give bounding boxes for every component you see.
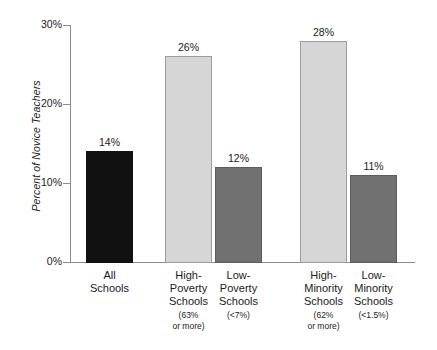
category-label-low-minority-schools: Low- Minority Schools (<1.5%) [341, 269, 406, 320]
bar-chart: Percent of Novice Teachers 30% 20% 10% 0… [0, 0, 437, 350]
category-line-3: Schools [169, 295, 208, 307]
category-line-1: Low- [362, 269, 386, 281]
category-label-low-poverty-schools: Low- Poverty Schools (<7%) [207, 269, 270, 320]
bar-low-minority-schools [350, 175, 397, 263]
y-tick-label-0: 0% [26, 256, 62, 267]
y-tick-10 [63, 183, 70, 184]
category-line-3: Schools [219, 295, 258, 307]
category-line-3: Schools [304, 295, 343, 307]
category-line-1: Low- [227, 269, 251, 281]
y-tick-label-20: 20% [26, 98, 62, 109]
bar-all-schools [86, 151, 133, 263]
bar-value-high-poverty-schools: 26% [165, 42, 212, 53]
bar-value-low-minority-schools: 11% [350, 161, 397, 172]
category-line-2: Minority [354, 282, 393, 294]
y-tick-30 [63, 25, 70, 26]
y-tick-0 [63, 262, 70, 263]
bar-value-high-minority-schools: 28% [300, 27, 347, 38]
y-tick-20 [63, 104, 70, 105]
category-line-2: Minority [304, 282, 343, 294]
bar-value-all-schools: 14% [86, 137, 133, 148]
category-label-all-schools: All Schools [79, 269, 140, 295]
bar-value-low-poverty-schools: 12% [215, 153, 262, 164]
category-sub-1: (<7%) [207, 310, 270, 321]
category-sub-2: or more) [291, 321, 356, 332]
y-tick-label-10: 10% [26, 177, 62, 188]
bar-low-poverty-schools [215, 167, 262, 263]
category-line-3: Schools [354, 295, 393, 307]
category-line-2: Poverty [170, 282, 207, 294]
y-axis-line [70, 25, 71, 263]
y-axis-title: Percent of Novice Teachers [30, 46, 42, 246]
category-sub-1: (<1.5%) [341, 310, 406, 321]
category-line-1: High- [310, 269, 336, 281]
category-line-2: Poverty [220, 282, 257, 294]
y-tick-label-30: 30% [26, 19, 62, 30]
category-line-1: All [103, 269, 115, 281]
bar-high-minority-schools [300, 41, 347, 263]
category-line-2: Schools [90, 282, 129, 294]
category-sub-2: or more) [157, 321, 220, 332]
bar-high-poverty-schools [165, 56, 212, 263]
category-line-1: High- [175, 269, 201, 281]
